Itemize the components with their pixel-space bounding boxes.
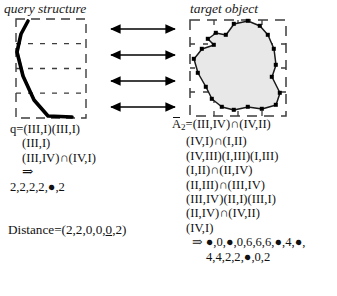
target-equations-block: A2=(III,IV)∩(IV,II) (IV,I)∩(I,II) (IV,II…	[172, 117, 305, 264]
query-eq-line-1: (III,I)	[10, 136, 96, 150]
query-structure-svg	[2, 17, 102, 121]
query-structure-diagram	[2, 17, 102, 121]
distance-line: Distance=(2,2,0,0,0,2)	[8, 222, 126, 238]
query-structure-title: query structure	[4, 1, 86, 16]
target-result-tail-line: 4,4,2,2,●,0,2	[172, 250, 305, 264]
implies-arrow-icon: ⇒	[10, 165, 96, 179]
target-eq-line-5: (II,IV)∩(IV,II)	[172, 206, 305, 220]
figure-root: query structure target object	[0, 0, 337, 296]
target-eq-head-rest: =(III,IV)∩(IV,II)	[186, 117, 271, 131]
target-object-svg	[184, 15, 302, 123]
query-eq-line-0: q=(III,I)(III,I)	[10, 122, 96, 136]
query-result-vector: 2,2,2,2,●,2	[10, 180, 96, 194]
target-eq-head: A2=(III,IV)∩(IV,II)	[172, 117, 305, 134]
query-grid-box	[16, 19, 86, 118]
double-headed-arrow-icon	[111, 29, 175, 107]
target-result-arrow-line: ⇒ ●,0,●,0,6,6,6,●,4,●,	[172, 235, 305, 249]
target-eq-line-2: (I,II)∩(II,IV)	[172, 163, 305, 177]
target-eq-line-6: (IV,I)	[172, 221, 305, 235]
arrows-svg	[104, 20, 182, 120]
correspondence-arrows	[104, 20, 182, 120]
distance-label-suffix: ,2)	[112, 222, 126, 237]
target-eq-line-3: (II,III)∩(III,IV)	[172, 178, 305, 192]
query-equations-block: q=(III,I)(III,I) (III,I) (III,IV)∩(IV,I)…	[10, 122, 96, 194]
target-eq-line-1: (IV,III)(I,III)(I,III)	[172, 149, 305, 163]
distance-label-prefix: Distance=(2,2,0,0,	[8, 222, 106, 237]
query-eq-line-2: (III,IV)∩(IV,I)	[10, 151, 96, 165]
a2-overline-variable: A	[172, 117, 181, 131]
target-eq-line-4: (III,IV)(II,I)(III,I)	[172, 192, 305, 206]
target-object-title: target object	[190, 1, 258, 16]
target-eq-line-0: (IV,I)∩(I,II)	[172, 134, 305, 148]
target-object-diagram	[184, 15, 302, 123]
